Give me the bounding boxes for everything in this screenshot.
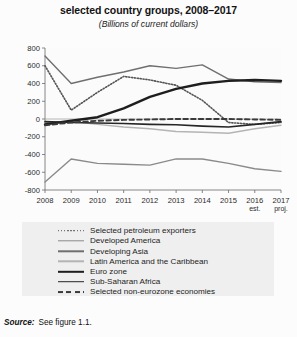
y-tick-label: 800 — [27, 44, 40, 53]
source-label: Source: — [4, 318, 34, 327]
legend-item: Euro zone — [22, 267, 274, 277]
x-tick-label: 2008 — [37, 196, 54, 205]
x-tick-label: 2012 — [141, 196, 158, 205]
chart-legend: Selected petroleum exportersDeveloped Am… — [22, 222, 274, 296]
y-tick-label: -800 — [25, 186, 40, 195]
source-note: Source:See figure 1.1. — [4, 318, 92, 327]
x-tick-label: 2015 — [220, 196, 237, 205]
x-tick-label: 2010 — [89, 196, 106, 205]
legend-item: Selected non-eurozone economies — [22, 287, 274, 297]
legend-item-label: Selected non-eurozone economies — [90, 287, 215, 296]
legend-swatch-solid-icon — [58, 257, 84, 266]
legend-swatch-solid-icon — [58, 247, 84, 256]
legend-list: Selected petroleum exportersDeveloped Am… — [22, 222, 274, 297]
page-title: selected country groups, 2008–2017 — [0, 4, 297, 16]
legend-item-label: Developing Asia — [90, 247, 148, 256]
legend-item: Developed America — [22, 236, 274, 246]
legend-item: Sub-Saharan Africa — [22, 277, 274, 287]
x-tick-label: 2017 — [273, 196, 290, 205]
legend-item-label: Latin America and the Caribbean — [90, 257, 208, 266]
line-chart: 8006004002000-200-400-600-80020082009201… — [0, 40, 297, 222]
legend-item-label: Euro zone — [90, 267, 127, 276]
source-text: See figure 1.1. — [38, 318, 91, 327]
y-tick-label: 600 — [27, 61, 40, 70]
chart-area: 8006004002000-200-400-600-80020082009201… — [0, 40, 297, 222]
legend-item: Latin America and the Caribbean — [22, 257, 274, 267]
legend-swatch-solid-icon — [58, 267, 84, 276]
legend-swatch-dashed-icon — [58, 287, 84, 296]
x-tick-label: 2014 — [194, 196, 211, 205]
legend-swatch-solid-icon — [58, 277, 84, 286]
legend-item-label: Developed America — [90, 236, 160, 245]
x-tick-label: 2013 — [168, 196, 185, 205]
chart-subtitle: (Billions of current dollars) — [0, 19, 297, 29]
y-tick-label: 200 — [27, 97, 40, 106]
legend-item-label: Selected petroleum exporters — [90, 226, 196, 235]
x-tick-label: 2011 — [115, 196, 131, 205]
legend-swatch-solid-icon — [58, 236, 84, 245]
chart-header: selected country groups, 2008–2017 (Bill… — [0, 0, 297, 29]
x-axis-annotation: est. — [249, 205, 260, 212]
legend-item: Developing Asia — [22, 246, 274, 256]
x-axis-annotation: proj. — [274, 205, 288, 213]
y-tick-label: 400 — [27, 79, 40, 88]
legend-swatch-dotted-icon — [58, 226, 84, 235]
x-tick-label: 2009 — [63, 196, 80, 205]
y-tick-label: 0 — [36, 115, 40, 124]
y-tick-label: -400 — [25, 150, 40, 159]
legend-item-label: Sub-Saharan Africa — [90, 277, 160, 286]
legend-item: Selected petroleum exporters — [22, 226, 274, 236]
x-tick-label: 2016 — [246, 196, 263, 205]
y-tick-label: -600 — [25, 168, 40, 177]
y-tick-label: -200 — [25, 132, 40, 141]
